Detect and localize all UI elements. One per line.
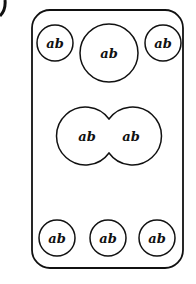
small-circle-bottom-right: ab [139,220,175,256]
top-row: ab ab ab [37,24,181,82]
dividing-cell-pair: ab ab [57,107,162,165]
circle-label: ab [46,36,64,51]
small-circle-bottom-left: ab [39,220,75,256]
bottom-row: ab ab ab [39,220,175,256]
circle-label: ab [148,231,166,246]
cell-diagram: ab ab ab ab ab ab ab ab [0,0,196,284]
large-circle-top-center: ab [80,24,138,82]
circle-label: ab [122,129,140,144]
small-circle-top-right: ab [145,25,181,61]
circle-label: ab [154,36,172,51]
circle-label: ab [48,231,66,246]
circle-label: ab [100,46,118,61]
small-circle-bottom-center: ab [90,220,126,256]
corner-fragment-mark [0,0,5,16]
small-circle-top-left: ab [37,25,73,61]
circle-label: ab [78,129,96,144]
circle-label: ab [99,231,117,246]
dumbbell-outline [57,107,162,165]
